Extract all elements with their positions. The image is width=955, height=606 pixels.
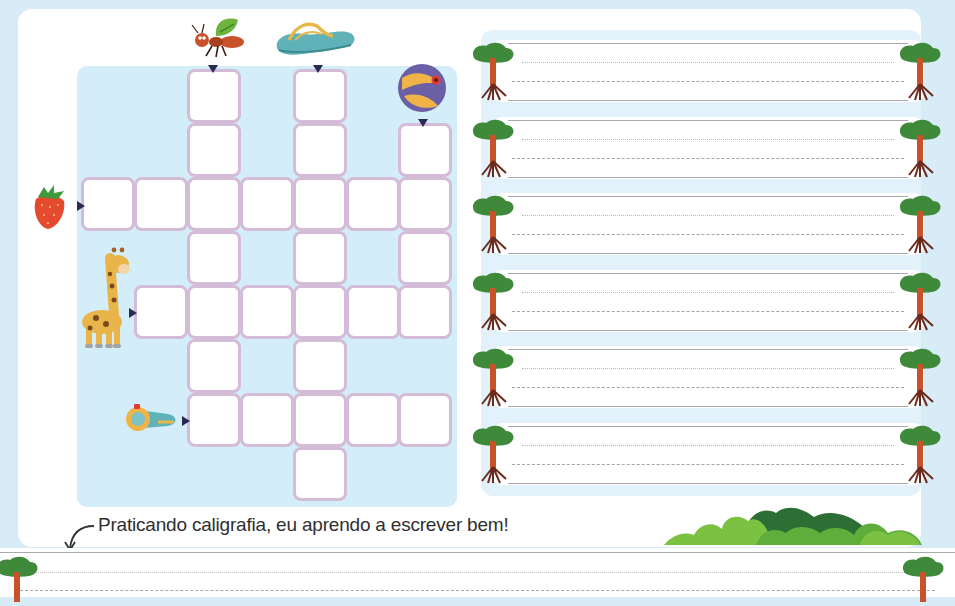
crossword-cell[interactable] [293, 393, 347, 447]
flip-flop-arrow-icon [313, 65, 323, 73]
strawberry-arrow-icon [77, 201, 85, 211]
giraffe-arrow-icon [129, 308, 137, 318]
tree-icon [470, 195, 516, 255]
crossword-cell[interactable] [187, 393, 241, 447]
handwriting-strip[interactable] [492, 423, 924, 485]
tree-icon [470, 119, 516, 179]
whistle-icon [124, 402, 180, 434]
tree-icon [470, 348, 516, 408]
crossword-cell[interactable] [346, 285, 400, 339]
handwriting-strip[interactable] [492, 193, 924, 255]
crossword-cell[interactable] [187, 69, 241, 123]
handwriting-strip[interactable] [492, 117, 924, 179]
handwriting-strip[interactable] [492, 40, 924, 102]
crossword-cell[interactable] [187, 123, 241, 177]
crossword-cell[interactable] [240, 177, 294, 231]
tree-icon [897, 42, 943, 102]
crossword-cell[interactable] [293, 339, 347, 393]
whistle-arrow-icon [182, 416, 190, 426]
crossword-cell[interactable] [293, 177, 347, 231]
crossword-cell[interactable] [398, 123, 452, 177]
crossword-cell[interactable] [293, 447, 347, 501]
crossword-cell[interactable] [240, 393, 294, 447]
crossword-cell[interactable] [293, 285, 347, 339]
tree-icon [0, 556, 40, 606]
tree-icon [470, 425, 516, 485]
crossword-cell[interactable] [187, 285, 241, 339]
crossword-cell[interactable] [81, 177, 135, 231]
tree-icon [897, 425, 943, 485]
bottom-handwriting-strip[interactable] [0, 548, 955, 597]
tree-icon [470, 272, 516, 332]
crossword-cell[interactable] [187, 177, 241, 231]
beach-ball-arrow-icon [418, 119, 428, 127]
tree-icon [897, 119, 943, 179]
caption-text: Praticando caligrafia, eu aprendo a escr… [98, 514, 509, 536]
tree-icon [900, 556, 946, 606]
tree-icon [897, 348, 943, 408]
crossword-cell[interactable] [398, 231, 452, 285]
crossword-cell[interactable] [293, 69, 347, 123]
crossword-cell[interactable] [134, 177, 188, 231]
tree-icon [897, 272, 943, 332]
crossword-cell[interactable] [346, 393, 400, 447]
crossword-cell[interactable] [293, 123, 347, 177]
strawberry-icon [30, 183, 70, 231]
handwriting-strip[interactable] [492, 270, 924, 332]
handwriting-strip[interactable] [492, 346, 924, 408]
crossword-cell[interactable] [398, 177, 452, 231]
crossword-cell[interactable] [187, 231, 241, 285]
crossword-cell[interactable] [134, 285, 188, 339]
crossword-cell[interactable] [398, 393, 452, 447]
ant-icon [186, 16, 246, 58]
crossword-cell[interactable] [240, 285, 294, 339]
top-band [0, 0, 460, 9]
tree-icon [897, 195, 943, 255]
crossword-cell[interactable] [398, 285, 452, 339]
crossword-cell[interactable] [187, 339, 241, 393]
beach-ball-icon [396, 62, 448, 114]
ant-arrow-icon [208, 65, 218, 73]
giraffe-icon [76, 244, 134, 350]
bushes-icon [664, 503, 922, 545]
crossword-cell[interactable] [293, 231, 347, 285]
flip-flop-icon [273, 20, 357, 58]
crossword-cell[interactable] [346, 177, 400, 231]
tree-icon [470, 42, 516, 102]
